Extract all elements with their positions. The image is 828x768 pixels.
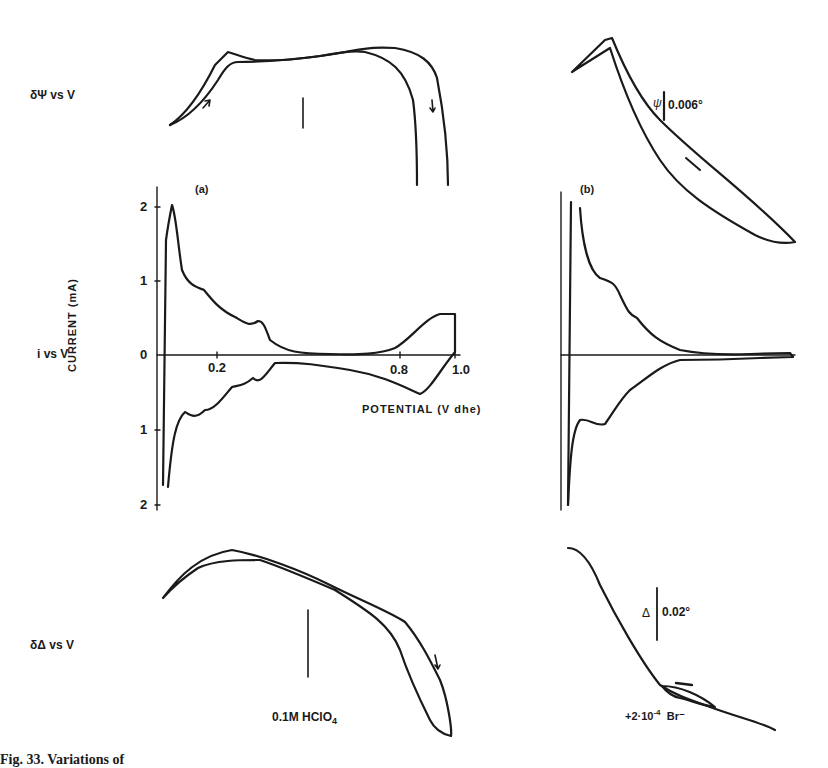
y-tick-1-bottom: 1 (140, 422, 147, 437)
psi-scale-symbol: ψ (653, 96, 662, 110)
delta-scale-symbol: Δ (642, 606, 650, 620)
y-tick-2-bottom: 2 (140, 497, 147, 512)
delta-curve-a (163, 550, 451, 736)
delta-scale-value: 0.02° (662, 605, 690, 619)
row-label-psi: δΨ vs V (30, 88, 75, 102)
delta-curve-b (568, 548, 775, 730)
row-label-current: i vs V (37, 347, 68, 361)
electrolyte-a-text: 0.1M HClO (272, 710, 332, 724)
y-tick-1-top: 1 (140, 273, 147, 288)
electrolyte-b-prefix: +2·10 (625, 710, 653, 722)
y-tick-0: 0 (140, 347, 147, 362)
x-tick-0-8: 0.8 (390, 362, 408, 377)
electrolyte-a-subscript: 4 (332, 716, 337, 726)
psi-curve-b (572, 38, 795, 243)
x-tick-1-0: 1.0 (452, 362, 470, 377)
current-curve-a (163, 205, 455, 487)
x-tick-0-2: 0.2 (208, 360, 226, 375)
axes-a (155, 187, 460, 510)
x-axis-label: POTENTIAL (V dhe) (362, 403, 481, 415)
electrolyte-b-superscript: -4 (653, 708, 660, 717)
electrolyte-label-b: +2·10-4 Br⁻ (625, 708, 685, 723)
psi-scale-value: 0.006° (668, 98, 703, 112)
axes-b (561, 192, 795, 510)
panel-label-a: (a) (195, 183, 208, 195)
panel-label-b: (b) (580, 183, 594, 195)
y-tick-2-top: 2 (140, 199, 147, 214)
electrolyte-b-suffix: Br⁻ (667, 710, 685, 722)
figure-caption: Fig. 33. Variations of (0, 752, 124, 768)
electrolyte-label-a: 0.1M HClO4 (272, 710, 337, 726)
y-axis-label: CURRENT (mA) (66, 278, 78, 372)
psi-curve-a (170, 48, 448, 185)
current-curve-b (568, 202, 793, 505)
row-label-delta: δΔ vs V (30, 638, 74, 652)
